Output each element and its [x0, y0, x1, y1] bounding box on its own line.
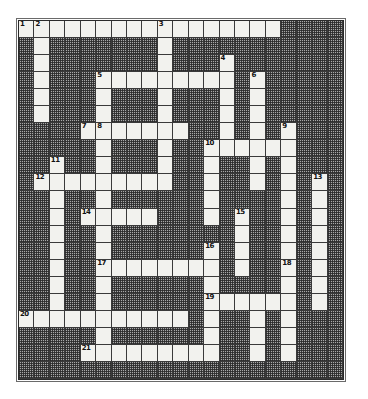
crossword-cell-open[interactable]: 2	[34, 21, 49, 38]
crossword-cell-open[interactable]	[96, 345, 111, 362]
crossword-cell-open[interactable]	[65, 311, 80, 328]
crossword-cell-open[interactable]	[281, 209, 296, 226]
crossword-cell-open[interactable]	[250, 345, 265, 362]
crossword-cell-open[interactable]	[220, 89, 235, 106]
crossword-cell-open[interactable]	[158, 38, 173, 55]
crossword-cell-open[interactable]: 7	[81, 123, 96, 140]
crossword-cell-open[interactable]	[281, 328, 296, 345]
crossword-cell-open[interactable]	[250, 140, 265, 157]
crossword-cell-open[interactable]	[312, 191, 327, 208]
crossword-cell-open[interactable]	[250, 21, 265, 38]
crossword-cell-open[interactable]	[96, 294, 111, 311]
crossword-cell-open[interactable]	[312, 243, 327, 260]
crossword-cell-open[interactable]	[220, 123, 235, 140]
crossword-cell-open[interactable]	[50, 311, 65, 328]
crossword-cell-open[interactable]: 17	[96, 260, 111, 277]
crossword-cell-open[interactable]	[81, 21, 96, 38]
crossword-cell-open[interactable]	[250, 294, 265, 311]
crossword-cell-open[interactable]	[96, 311, 111, 328]
crossword-cell-open[interactable]: 4	[220, 55, 235, 72]
crossword-cell-open[interactable]	[281, 191, 296, 208]
crossword-cell-open[interactable]	[220, 72, 235, 89]
crossword-cell-open[interactable]	[142, 345, 157, 362]
crossword-cell-open[interactable]	[50, 174, 65, 191]
crossword-cell-open[interactable]	[112, 72, 127, 89]
crossword-cell-open[interactable]	[189, 72, 204, 89]
crossword-cell-open[interactable]: 20	[19, 311, 34, 328]
crossword-cell-open[interactable]	[235, 226, 250, 243]
crossword-cell-open[interactable]	[235, 21, 250, 38]
crossword-cell-open[interactable]	[220, 21, 235, 38]
crossword-cell-open[interactable]	[250, 89, 265, 106]
crossword-cell-open[interactable]	[281, 243, 296, 260]
crossword-cell-open[interactable]	[250, 311, 265, 328]
crossword-cell-open[interactable]	[173, 345, 188, 362]
crossword-cell-open[interactable]	[142, 174, 157, 191]
crossword-cell-open[interactable]	[96, 277, 111, 294]
crossword-cell-open[interactable]	[127, 345, 142, 362]
crossword-cell-open[interactable]	[127, 72, 142, 89]
crossword-cell-open[interactable]	[312, 260, 327, 277]
crossword-cell-open[interactable]	[96, 328, 111, 345]
crossword-cell-open[interactable]	[96, 157, 111, 174]
crossword-cell-open[interactable]	[65, 21, 80, 38]
crossword-cell-open[interactable]	[50, 243, 65, 260]
crossword-cell-open[interactable]	[142, 123, 157, 140]
crossword-cell-open[interactable]	[204, 21, 219, 38]
crossword-cell-open[interactable]	[266, 294, 281, 311]
crossword-cell-open[interactable]: 6	[250, 72, 265, 89]
crossword-cell-open[interactable]	[281, 345, 296, 362]
crossword-cell-open[interactable]	[204, 209, 219, 226]
crossword-cell-open[interactable]	[158, 123, 173, 140]
crossword-cell-open[interactable]	[250, 123, 265, 140]
crossword-cell-open[interactable]	[281, 174, 296, 191]
crossword-cell-open[interactable]	[250, 106, 265, 123]
crossword-cell-open[interactable]	[158, 140, 173, 157]
crossword-cell-open[interactable]	[158, 106, 173, 123]
crossword-cell-open[interactable]	[204, 328, 219, 345]
crossword-cell-open[interactable]	[50, 260, 65, 277]
crossword-cell-open[interactable]	[158, 174, 173, 191]
crossword-cell-open[interactable]	[50, 226, 65, 243]
crossword-cell-open[interactable]	[112, 174, 127, 191]
crossword-cell-open[interactable]	[173, 260, 188, 277]
crossword-cell-open[interactable]	[189, 260, 204, 277]
crossword-cell-open[interactable]	[204, 72, 219, 89]
crossword-cell-open[interactable]: 3	[158, 21, 173, 38]
crossword-cell-open[interactable]	[266, 140, 281, 157]
crossword-cell-open[interactable]: 14	[81, 209, 96, 226]
crossword-cell-open[interactable]	[50, 209, 65, 226]
crossword-cell-open[interactable]	[112, 123, 127, 140]
crossword-cell-open[interactable]	[112, 345, 127, 362]
crossword-cell-open[interactable]	[34, 106, 49, 123]
crossword-cell-open[interactable]	[65, 174, 80, 191]
crossword-cell-open[interactable]	[34, 38, 49, 55]
crossword-cell-open[interactable]	[50, 294, 65, 311]
crossword-cell-open[interactable]	[158, 311, 173, 328]
crossword-cell-open[interactable]: 11	[50, 157, 65, 174]
crossword-cell-open[interactable]	[142, 311, 157, 328]
crossword-cell-open[interactable]	[204, 345, 219, 362]
crossword-cell-open[interactable]	[312, 209, 327, 226]
crossword-cell-open[interactable]: 13	[312, 174, 327, 191]
crossword-cell-open[interactable]	[250, 328, 265, 345]
crossword-cell-open[interactable]	[81, 311, 96, 328]
crossword-cell-open[interactable]	[112, 209, 127, 226]
crossword-cell-open[interactable]: 10	[204, 140, 219, 157]
crossword-cell-open[interactable]	[34, 72, 49, 89]
crossword-cell-open[interactable]	[96, 209, 111, 226]
crossword-cell-open[interactable]	[50, 21, 65, 38]
crossword-cell-open[interactable]: 16	[204, 243, 219, 260]
crossword-cell-open[interactable]	[158, 55, 173, 72]
crossword-cell-open[interactable]	[235, 140, 250, 157]
crossword-cell-open[interactable]: 19	[204, 294, 219, 311]
crossword-cell-open[interactable]	[173, 123, 188, 140]
crossword-cell-open[interactable]	[220, 294, 235, 311]
crossword-cell-open[interactable]	[127, 311, 142, 328]
crossword-cell-open[interactable]	[189, 345, 204, 362]
crossword-cell-open[interactable]	[204, 191, 219, 208]
crossword-cell-open[interactable]	[112, 260, 127, 277]
crossword-cell-open[interactable]	[50, 191, 65, 208]
crossword-cell-open[interactable]	[112, 311, 127, 328]
crossword-cell-open[interactable]	[312, 277, 327, 294]
